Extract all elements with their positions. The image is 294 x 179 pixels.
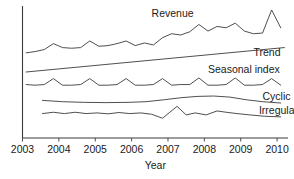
series-annotations: RevenueTrendSeasonal indexCyclicIrregula…	[152, 7, 294, 117]
series-line-cyclic	[43, 96, 281, 103]
chart-canvas: 20032004200520062007200820092010 Revenue…	[0, 0, 294, 179]
series-label-trend: Trend	[253, 46, 280, 58]
series-line-irregular	[43, 106, 281, 118]
series-label-irregular: Irregular	[259, 104, 294, 116]
x-tick-label-2009: 2009	[229, 143, 253, 155]
time-series-decomposition-chart: 20032004200520062007200820092010 Revenue…	[0, 0, 294, 179]
x-tick-label-2008: 2008	[193, 143, 217, 155]
series-label-seasonal-index: Seasonal index	[208, 63, 281, 75]
x-tick-label-2007: 2007	[156, 143, 180, 155]
x-tick-label-2003: 2003	[11, 143, 35, 155]
series-label-cyclic: Cyclic	[263, 90, 291, 102]
series-label-revenue: Revenue	[152, 7, 194, 19]
x-tick-label-2005: 2005	[84, 143, 108, 155]
series-line-seasonal-index	[26, 78, 281, 85]
x-tick-label-2004: 2004	[47, 143, 71, 155]
x-tick-label-2010: 2010	[265, 143, 289, 155]
x-tick-label-2006: 2006	[120, 143, 144, 155]
x-axis-tick-labels: 20032004200520062007200820092010	[11, 143, 289, 155]
x-axis-title: Year	[145, 159, 167, 171]
